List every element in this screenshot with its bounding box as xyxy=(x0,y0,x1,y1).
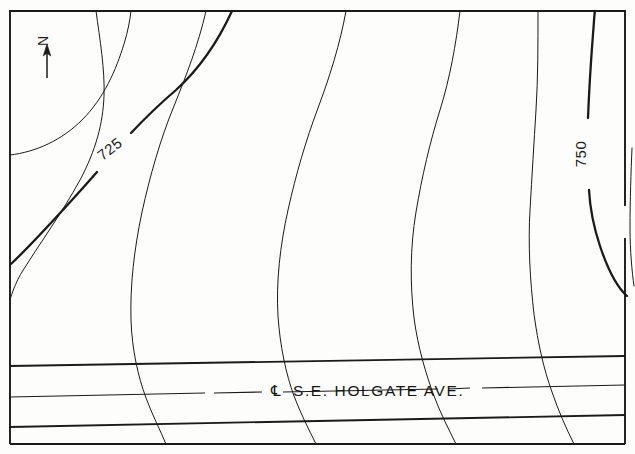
street-centerline-left-dash xyxy=(214,392,262,393)
contour-label-725: 725 xyxy=(94,134,125,164)
north-arrow: N xyxy=(35,36,51,78)
contour-line-750-lower xyxy=(589,190,627,296)
street-bottom-curb-line xyxy=(10,415,625,427)
contour-line-745 xyxy=(411,11,460,444)
map-border xyxy=(10,11,625,444)
map-canvas: 725 750 N S.E. HOLGATE AVE. xyxy=(0,0,635,454)
contour-line-750-upper xyxy=(588,11,595,118)
contour-line-725-lower xyxy=(11,172,97,264)
contour-line-701 xyxy=(10,11,104,300)
street-right-of-way: S.E. HOLGATE AVE. ℄ xyxy=(10,356,625,427)
centerline-symbol-glyph: ℄ xyxy=(270,383,281,399)
contour-lines-group xyxy=(10,11,634,444)
street-centerline-left xyxy=(10,393,205,397)
contour-label-725-group: 725 xyxy=(94,134,125,164)
contour-line-755 xyxy=(630,148,634,286)
contour-line-725-upper xyxy=(131,11,232,133)
contour-map-figure: 725 750 N S.E. HOLGATE AVE. xyxy=(0,0,635,454)
contour-line-748 xyxy=(529,11,574,444)
contour-line-730 xyxy=(10,11,131,155)
street-top-curb-line xyxy=(10,356,625,366)
centerline-symbol: ℄ xyxy=(270,383,281,399)
contour-label-750-group: 750 xyxy=(572,141,589,168)
contour-line-735 xyxy=(131,11,206,444)
north-arrow-label: N xyxy=(35,36,51,46)
contour-label-750: 750 xyxy=(572,141,589,168)
contour-line-740 xyxy=(277,11,346,444)
street-centerline-right xyxy=(482,385,625,388)
street-name-label: S.E. HOLGATE AVE. xyxy=(293,382,464,399)
